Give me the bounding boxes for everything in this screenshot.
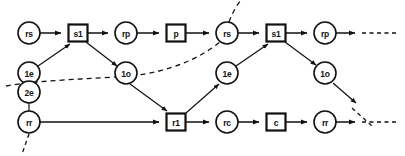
node-p-1[interactable]: p xyxy=(167,25,186,42)
node-rr-2[interactable]: rr xyxy=(314,111,336,133)
node-rr-1[interactable]: rr xyxy=(18,111,40,133)
node-label: rr xyxy=(26,118,33,128)
edge-s1-1-to-1o1 xyxy=(86,42,117,66)
graph-diagram: rs s1 rp p rs s1 rp 1e xyxy=(0,0,405,156)
node-label: rs xyxy=(25,29,33,39)
edge-rr1-dashed-down xyxy=(22,134,29,154)
node-label: 1o xyxy=(320,69,330,79)
node-rp-2[interactable]: rp xyxy=(314,22,336,44)
node-c-1[interactable]: c xyxy=(267,114,286,131)
edge-r1-to-1e2 xyxy=(186,84,219,113)
node-label: rc xyxy=(223,118,231,128)
edge-1e1-to-s1-1 xyxy=(38,44,70,66)
edge-1o1-to-r1 xyxy=(130,84,167,111)
node-label: 2e xyxy=(24,88,34,98)
node-1o-1[interactable]: 1o xyxy=(115,62,137,84)
node-rs-1[interactable]: rs xyxy=(18,22,40,44)
node-label: rp xyxy=(321,29,329,39)
node-1o-2[interactable]: 1o xyxy=(314,62,336,84)
node-s1-2[interactable]: s1 xyxy=(267,25,286,42)
node-label: rs xyxy=(223,29,231,39)
edge-1e2-to-s1-2 xyxy=(236,44,268,66)
node-label: c xyxy=(274,118,279,128)
node-label: rr xyxy=(322,118,329,128)
node-2e-1[interactable]: 2e xyxy=(18,81,40,103)
node-label: 1e xyxy=(24,69,34,79)
node-s1-1[interactable]: s1 xyxy=(69,25,88,42)
node-label: 1e xyxy=(222,69,232,79)
node-label: rp xyxy=(122,29,130,39)
node-rs-2[interactable]: rs xyxy=(216,22,238,44)
edge-s1-2-to-1o2 xyxy=(285,42,316,65)
node-label: 1o xyxy=(121,69,131,79)
node-rc-1[interactable]: rc xyxy=(216,111,238,133)
node-label: s1 xyxy=(73,29,83,39)
node-label: s1 xyxy=(271,29,281,39)
node-rp-1[interactable]: rp xyxy=(115,22,137,44)
node-label: r1 xyxy=(172,118,180,128)
node-label: p xyxy=(174,29,179,39)
node-1e-2[interactable]: 1e xyxy=(216,62,238,84)
diagram-canvas: rs s1 rp p rs s1 rp 1e xyxy=(0,0,405,156)
node-r1-1[interactable]: r1 xyxy=(167,114,186,131)
edge-1o2-to-lower-right-continuation xyxy=(333,83,372,126)
